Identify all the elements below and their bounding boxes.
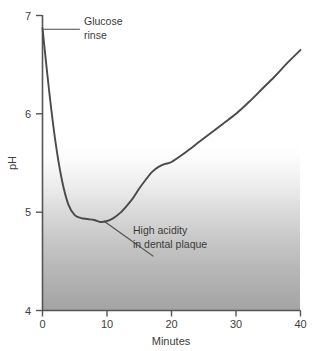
x-tick-label-20: 20 <box>165 318 177 330</box>
x-tick-label-0: 0 <box>39 318 45 330</box>
glucose-rinse-annotation: Glucose rinse <box>84 15 123 41</box>
chart-canvas: 7 6 5 4 0 10 20 30 40 Minutes pH Glucose… <box>0 0 312 351</box>
glucose-rinse-label-line1: Glucose <box>84 15 123 27</box>
x-ticks-group <box>43 311 301 317</box>
y-tick-label-7: 7 <box>25 10 31 22</box>
y-tick-label-4: 4 <box>25 305 31 317</box>
x-tick-label-30: 30 <box>230 318 242 330</box>
x-tick-label-40: 40 <box>294 318 306 330</box>
y-ticks-group <box>36 16 42 311</box>
y-axis-title: pH <box>6 156 18 170</box>
x-tick-label-10: 10 <box>101 318 113 330</box>
x-axis-title: Minutes <box>152 335 191 347</box>
y-tick-label-6: 6 <box>25 108 31 120</box>
glucose-rinse-label-line2: rinse <box>84 29 107 41</box>
plot-shading-rect <box>42 132 300 310</box>
ph-stephan-curve-chart: 7 6 5 4 0 10 20 30 40 Minutes pH Glucose… <box>0 0 312 351</box>
y-tick-label-5: 5 <box>25 206 31 218</box>
high-acidity-label-line2: in dental plaque <box>133 238 207 250</box>
high-acidity-label-line1: High acidity <box>133 224 188 236</box>
